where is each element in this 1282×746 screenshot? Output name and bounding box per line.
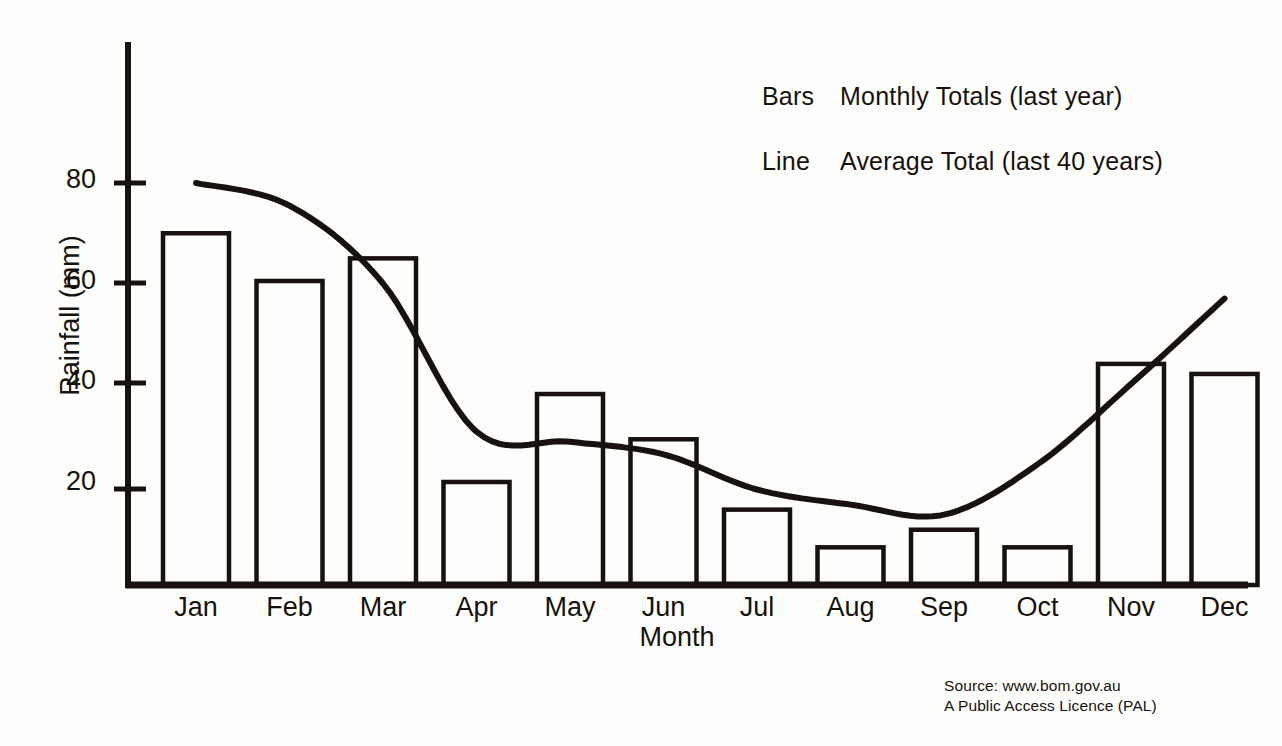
x-tick-label-may: May — [520, 592, 620, 623]
x-axis-title: Month — [0, 622, 1282, 653]
x-tick-label-nov: Nov — [1081, 592, 1181, 623]
legend-row-line: Line Average Total (last 40 years) — [762, 147, 1232, 176]
x-tick-label-oct: Oct — [988, 592, 1088, 623]
legend-key-line: Line — [762, 147, 840, 176]
x-tick-label-dec: Dec — [1175, 592, 1275, 623]
x-tick-label-sep: Sep — [894, 592, 994, 623]
y-tick-label-60: 60 — [32, 265, 96, 296]
legend-desc-bars: Monthly Totals (last year) — [840, 82, 1123, 111]
x-tick-label-aug: Aug — [801, 592, 901, 623]
rainfall-chart: Rainfall (mm) Month 20406080 JanFebMarAp… — [0, 0, 1282, 746]
bar-may — [537, 394, 603, 585]
bar-nov — [1098, 364, 1164, 585]
y-tick-label-40: 40 — [32, 365, 96, 396]
legend-key-bars: Bars — [762, 82, 840, 111]
x-tick-label-mar: Mar — [333, 592, 433, 623]
y-tick-label-20: 20 — [32, 466, 96, 497]
bar-jul — [724, 510, 790, 585]
bar-jan — [163, 233, 229, 585]
chart-legend: Bars Monthly Totals (last year) Line Ave… — [762, 82, 1232, 212]
source-line-1: Source: www.bom.gov.au — [944, 676, 1157, 696]
x-tick-label-jun: Jun — [614, 592, 714, 623]
x-axis-title-text: Month — [639, 622, 714, 652]
x-tick-label-jul: Jul — [707, 592, 807, 623]
bar-dec — [1192, 374, 1258, 585]
bar-oct — [1005, 547, 1071, 585]
y-axis-title: Rainfall (mm) — [55, 186, 86, 446]
x-tick-label-feb: Feb — [240, 592, 340, 623]
source-attribution: Source: www.bom.gov.au A Public Access L… — [944, 676, 1157, 716]
legend-desc-line: Average Total (last 40 years) — [840, 147, 1163, 176]
bar-series — [163, 233, 1258, 585]
bar-aug — [818, 547, 884, 585]
bar-apr — [444, 482, 510, 585]
x-tick-label-jan: Jan — [146, 592, 246, 623]
legend-row-bars: Bars Monthly Totals (last year) — [762, 82, 1232, 111]
bar-mar — [350, 258, 416, 585]
y-tick-label-80: 80 — [32, 164, 96, 195]
source-line-2: A Public Access Licence (PAL) — [944, 696, 1157, 716]
bar-sep — [911, 530, 977, 585]
bar-feb — [257, 281, 323, 585]
x-tick-label-apr: Apr — [427, 592, 527, 623]
